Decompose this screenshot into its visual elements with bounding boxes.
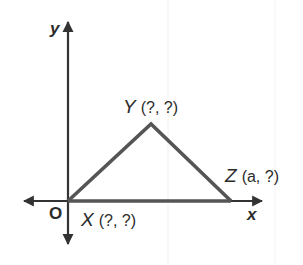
vertex-z-name: Z: [225, 165, 237, 186]
vertex-z-coord: (a, ?): [242, 168, 279, 185]
triangle-xyz: [68, 124, 231, 201]
vertex-z-label: Z (a, ?): [225, 166, 279, 185]
x-axis-label: x: [247, 206, 256, 223]
diagram-svg: [0, 0, 303, 265]
vertex-y-name: Y: [123, 96, 136, 117]
origin-label: O: [49, 205, 62, 222]
vertex-x-label: X (?, ?): [81, 210, 136, 229]
y-axis-label: y: [50, 20, 59, 37]
vertex-x-name: X: [81, 209, 94, 230]
vertex-y-coord: (?, ?): [141, 99, 178, 116]
coordinate-diagram: y x O Y (?, ?) Z (a, ?) X (?, ?): [0, 0, 303, 265]
vertex-x-coord: (?, ?): [99, 212, 136, 229]
vertex-y-label: Y (?, ?): [123, 97, 178, 116]
